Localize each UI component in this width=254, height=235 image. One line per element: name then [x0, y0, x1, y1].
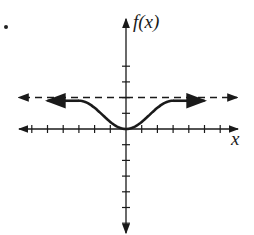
x-axis-label: x: [231, 128, 239, 150]
function-graph: [0, 0, 254, 235]
y-axis: [122, 19, 130, 233]
y-axis-label: f(x): [133, 11, 159, 33]
